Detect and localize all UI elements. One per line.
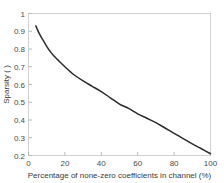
chart-canvas: 1 0.9 0.8 0.7 0.6 0.5 0.4 0.3 0.2 0 20 4… [0, 0, 224, 183]
x-tick-label: 40 [97, 159, 106, 168]
y-tick-label: 0.3 [14, 134, 26, 143]
y-tick-label: 0.9 [14, 27, 26, 36]
x-tick-label: 80 [170, 159, 179, 168]
figure-container: 1 0.9 0.8 0.7 0.6 0.5 0.4 0.3 0.2 0 20 4… [0, 0, 224, 183]
x-tick-label: 100 [204, 159, 218, 168]
y-tick-label: 0.6 [14, 81, 26, 90]
x-tick-label: 20 [60, 159, 69, 168]
x-tick-label: 0 [26, 159, 31, 168]
y-tick-label: 0.4 [14, 116, 26, 125]
y-tick-label: 0.2 [14, 152, 26, 161]
y-axis-title: Sparsity ( ) [2, 65, 11, 104]
x-axis-title: Percentage of none-zero coefficients in … [28, 171, 212, 180]
x-tick-label: 60 [133, 159, 142, 168]
y-tick-label: 1 [21, 10, 26, 19]
y-tick-label: 0.5 [14, 98, 26, 107]
y-tick-label: 0.7 [14, 63, 26, 72]
y-tick-labels: 1 0.9 0.8 0.7 0.6 0.5 0.4 0.3 0.2 [14, 10, 26, 161]
y-tick-label: 0.8 [14, 45, 26, 54]
